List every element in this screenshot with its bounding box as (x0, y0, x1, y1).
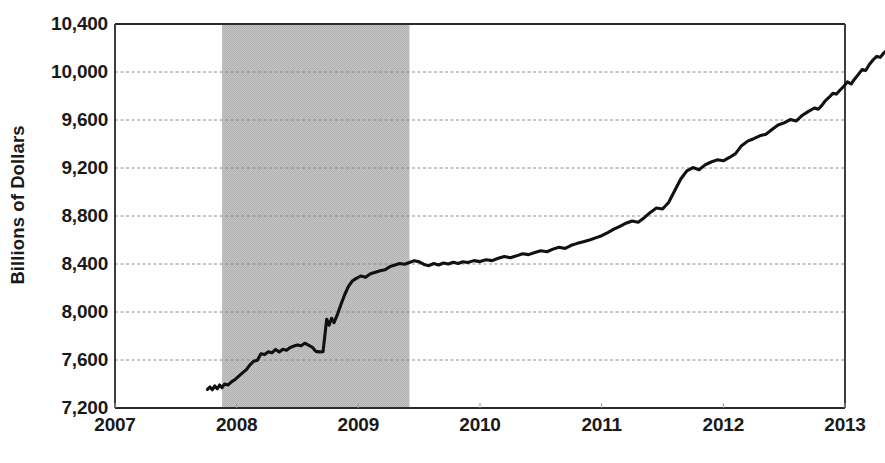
plot-area (0, 0, 885, 463)
chart-figure: Billions of Dollars 7,2007,6008,0008,400… (0, 0, 885, 463)
